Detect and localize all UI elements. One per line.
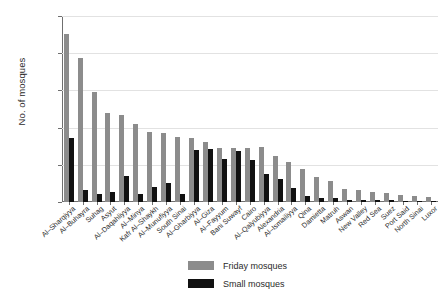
bar-group xyxy=(159,16,173,202)
bar-small xyxy=(97,194,102,202)
bar-small xyxy=(110,192,115,202)
bar-group xyxy=(76,16,90,202)
bar-series-container xyxy=(62,16,438,202)
bar-group xyxy=(187,16,201,202)
legend-item: Small mosques xyxy=(188,276,368,291)
bar-friday xyxy=(175,137,180,202)
bar-group xyxy=(271,16,285,202)
bar-group xyxy=(299,16,313,202)
bar-friday xyxy=(133,124,138,202)
bar-group xyxy=(410,16,424,202)
bar-group xyxy=(243,16,257,202)
y-axis-tick xyxy=(58,202,62,203)
legend-label: Friday mosques xyxy=(223,261,287,271)
bar-group xyxy=(396,16,410,202)
bar-small xyxy=(180,194,185,202)
bar-small xyxy=(152,187,157,202)
legend-item: Friday mosques xyxy=(188,258,368,273)
bar-group xyxy=(173,16,187,202)
bar-small xyxy=(278,179,283,202)
legend-swatch xyxy=(188,279,214,288)
chart-legend: Friday mosquesSmall mosques xyxy=(188,258,368,294)
bar-chart: No. of mosques 02,0004,0006,0008,00010,0… xyxy=(0,0,442,294)
bar-friday xyxy=(92,92,97,202)
bar-group xyxy=(146,16,160,202)
bar-group xyxy=(368,16,382,202)
bar-small xyxy=(291,188,296,202)
bar-group xyxy=(229,16,243,202)
bar-group xyxy=(313,16,327,202)
bar-small xyxy=(166,183,171,202)
bar-friday xyxy=(105,113,110,202)
y-axis-title: No. of mosques xyxy=(16,27,27,157)
bar-small xyxy=(264,174,269,202)
bar-small xyxy=(236,151,241,202)
bar-small xyxy=(124,176,129,202)
bar-friday xyxy=(78,58,83,202)
bar-group xyxy=(215,16,229,202)
bar-group xyxy=(62,16,76,202)
legend-label: Small mosques xyxy=(223,279,285,289)
x-axis-tick-labels: Al–SharqiyyaAl–BuhayraSuhagAsyutAl–Daqah… xyxy=(62,204,442,262)
bar-group xyxy=(104,16,118,202)
bar-small xyxy=(208,149,213,202)
bar-small xyxy=(194,150,199,202)
bar-group xyxy=(382,16,396,202)
bar-small xyxy=(83,190,88,202)
bar-small xyxy=(250,160,255,202)
bar-small xyxy=(138,194,143,202)
bar-group xyxy=(424,16,438,202)
legend-swatch xyxy=(188,261,214,270)
bar-group xyxy=(341,16,355,202)
bar-group xyxy=(285,16,299,202)
bar-small xyxy=(69,138,74,202)
bar-group xyxy=(257,16,271,202)
bar-group xyxy=(327,16,341,202)
bar-group xyxy=(132,16,146,202)
bar-group xyxy=(118,16,132,202)
bar-group xyxy=(354,16,368,202)
bar-group xyxy=(90,16,104,202)
bar-group xyxy=(201,16,215,202)
bar-small xyxy=(222,159,227,202)
plot-area xyxy=(62,16,438,202)
